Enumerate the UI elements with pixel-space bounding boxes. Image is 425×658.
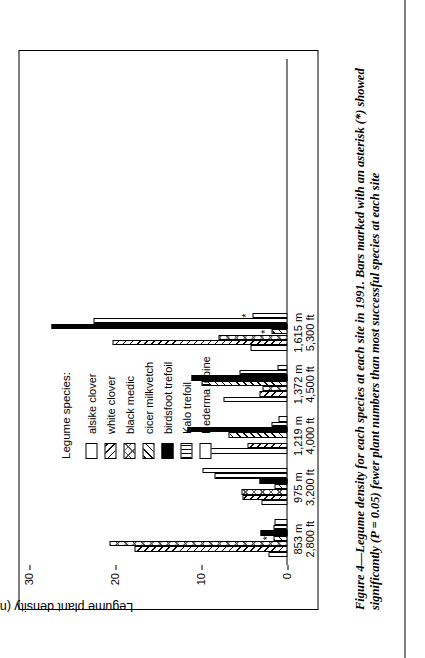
x-axis-category-label: 1,372 m4,500 ft: [291, 359, 315, 411]
x-axis-label-feet: 3,200 ft: [303, 462, 315, 514]
bar: [274, 484, 287, 489]
legend-swatch-icon: [85, 443, 97, 459]
x-axis-label-meters: 853 m: [291, 513, 303, 565]
y-axis-title: Legume plant density (number/m2): [0, 600, 187, 615]
bar: [239, 370, 287, 375]
figure-rotated-canvas: 0102030 *** 853 m2,800 ft975 m3,200 ft1,…: [0, 0, 425, 658]
legend-item: alsike clover: [83, 289, 98, 459]
x-axis-labels: 853 m2,800 ft975 m3,200 ft1,219 m4,000 f…: [287, 59, 317, 565]
bar: [261, 500, 287, 505]
legend-item-label: alsike clover: [85, 373, 97, 434]
x-axis-category-label: 975 m3,200 ft: [291, 462, 315, 514]
y-axis-tick-mark: [201, 565, 202, 570]
legend-item: cicer milkvetch: [140, 289, 155, 459]
bar: [274, 519, 287, 524]
horizontal-rule: [404, 0, 405, 658]
x-axis-label-meters: 1,219 m: [291, 410, 303, 462]
y-axis-tick-label: 20: [110, 573, 121, 585]
plot-frame: 0102030 *** 853 m2,800 ft975 m3,200 ft1,…: [18, 50, 318, 610]
legend-item: Kalo trefoil: [178, 289, 193, 459]
legend-swatch-icon: [104, 443, 116, 459]
x-axis-category-label: 1,615 m5,300 ft: [291, 307, 315, 359]
legend-item-label: birdsfoot trefoil: [161, 362, 173, 434]
legend-items: alsike cloverwhite cloverblack mediccice…: [83, 289, 212, 459]
y-axis-tick-mark: [29, 565, 30, 570]
bar: [259, 391, 287, 396]
bar: [271, 422, 287, 427]
legend-item: Hederma lupine: [197, 289, 212, 459]
bar: [262, 386, 287, 391]
bar: [228, 432, 287, 437]
legend-swatch-icon: [123, 443, 135, 459]
x-axis-label-meters: 975 m: [291, 462, 303, 514]
y-axis-tick-mark: [287, 565, 288, 570]
bar-group: *: [29, 513, 287, 565]
bar: [134, 546, 287, 551]
bar: [247, 443, 287, 448]
bar: [207, 448, 287, 453]
x-axis-label-meters: 1,372 m: [291, 359, 303, 411]
bar: [223, 397, 288, 402]
bar: [268, 552, 287, 557]
bar: *: [273, 536, 287, 541]
legend-item: birdsfoot trefoil: [159, 289, 174, 459]
legend: Legume species: alsike cloverwhite clove…: [59, 289, 216, 459]
legend-item: black medic: [121, 289, 136, 459]
x-axis-label-meters: 1,615 m: [291, 307, 303, 359]
legend-item-label: black medic: [123, 376, 135, 434]
significance-asterisk: *: [260, 330, 269, 334]
x-axis-label-feet: 4,500 ft: [303, 359, 315, 411]
bar: [250, 345, 287, 350]
figure-container: 0102030 *** 853 m2,800 ft975 m3,200 ft1,…: [0, 0, 425, 658]
legend-title: Legume species:: [59, 289, 71, 459]
x-axis-category-label: 853 m2,800 ft: [291, 513, 315, 565]
bar: [241, 489, 287, 494]
bar: [214, 473, 287, 478]
x-axis-category-label: 1,219 m4,000 ft: [291, 410, 315, 462]
significance-asterisk: *: [241, 314, 250, 318]
y-axis-tick-label: 10: [196, 573, 207, 585]
legend-swatch-icon: [142, 443, 154, 459]
legend-item: white clover: [102, 289, 117, 459]
bar: [242, 495, 287, 500]
legend-item-label: Hederma lupine: [199, 356, 211, 434]
bar: [259, 479, 287, 484]
legend-swatch-icon: [180, 443, 192, 459]
y-axis-tick-label: 0: [282, 573, 293, 579]
x-axis-label-feet: 4,000 ft: [303, 410, 315, 462]
legend-swatch-icon: [199, 443, 211, 459]
y-axis-tick-label: 30: [24, 573, 35, 585]
x-axis-label-feet: 5,300 ft: [303, 307, 315, 359]
bar: [273, 525, 287, 530]
legend-item-label: white clover: [104, 376, 116, 434]
y-axis-tick-mark: [115, 565, 116, 570]
bar-group: [29, 462, 287, 514]
legend-item-label: Kalo trefoil: [180, 382, 192, 434]
bar: *: [252, 313, 287, 318]
bar: [260, 530, 287, 535]
legend-swatch-icon: [161, 443, 173, 459]
bar: *: [271, 329, 287, 334]
bar: [278, 416, 287, 421]
x-axis-label-feet: 2,800 ft: [303, 513, 315, 565]
figure-caption: Figure 4—Legume density for each species…: [352, 50, 382, 610]
bar: [202, 468, 287, 473]
bar: [218, 335, 287, 340]
significance-asterisk: *: [262, 536, 271, 540]
legend-item-label: cicer milkvetch: [142, 362, 154, 434]
y-axis-title-text: Legume plant density (number/m: [0, 600, 133, 614]
bar: [277, 365, 287, 370]
bar: [109, 541, 287, 546]
